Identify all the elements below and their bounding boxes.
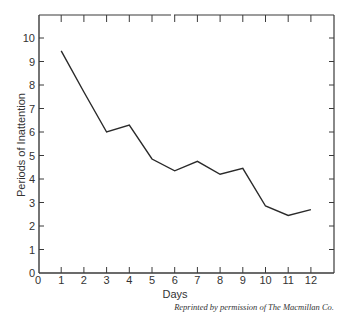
y-tick-label: 6 xyxy=(29,126,35,138)
y-tick-label: 1 xyxy=(29,244,35,256)
y-axis-title: Periods of Inattention xyxy=(15,93,27,197)
x-tick-label: 9 xyxy=(240,274,246,286)
x-tick-label: 1 xyxy=(58,274,64,286)
x-axis-ticks: 0123456789101112 xyxy=(35,15,317,286)
data-series-line xyxy=(61,51,311,216)
y-tick-label: 7 xyxy=(29,103,35,115)
y-tick-label: 3 xyxy=(29,197,35,209)
x-tick-label: 7 xyxy=(194,274,200,286)
y-tick-label: 4 xyxy=(29,173,35,185)
x-tick-label: 5 xyxy=(149,274,155,286)
x-axis-title: Days xyxy=(162,288,188,300)
x-tick-label: 3 xyxy=(104,274,110,286)
x-tick-label: 4 xyxy=(126,274,132,286)
y-tick-label: 8 xyxy=(29,79,35,91)
x-tick-label: 0 xyxy=(35,274,41,286)
line-chart: 012345678910 0123456789101112 Days Perio… xyxy=(0,0,348,325)
y-axis-ticks: 012345678910 xyxy=(23,32,334,279)
x-tick-label: 11 xyxy=(282,274,293,286)
y-tick-label: 9 xyxy=(29,56,35,68)
x-tick-label: 10 xyxy=(259,274,271,286)
x-tick-label: 6 xyxy=(172,274,178,286)
x-tick-label: 2 xyxy=(81,274,87,286)
y-tick-label: 10 xyxy=(23,32,35,44)
permission-caption: Reprinted by permission of The Macmillan… xyxy=(174,302,334,312)
x-tick-label: 12 xyxy=(305,274,317,286)
y-tick-label: 5 xyxy=(29,150,35,162)
plot-frame xyxy=(39,15,334,273)
y-tick-label: 2 xyxy=(29,220,35,232)
x-tick-label: 8 xyxy=(217,274,223,286)
